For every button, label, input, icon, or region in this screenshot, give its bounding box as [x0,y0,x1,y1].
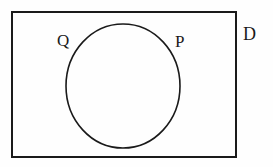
set-label-q: Q [57,32,69,49]
universal-set-rectangle [12,12,236,157]
venn-diagram: Q P D [0,0,273,167]
venn-diagram-canvas [0,0,273,167]
universal-set-label-d: D [243,25,256,43]
set-label-p: P [175,33,184,50]
set-circle [66,24,180,148]
